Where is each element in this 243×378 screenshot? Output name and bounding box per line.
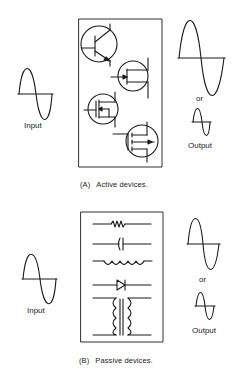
caption-tag-b: (B) (79, 356, 89, 365)
caption-a: (A)Active devices. (80, 181, 148, 189)
caption-text-a: Active devices. (96, 180, 148, 189)
output-label-a: Output (188, 142, 212, 150)
caption-tag-a: (A) (80, 180, 90, 189)
inductor-icon (93, 261, 152, 265)
passive-devices-box (81, 212, 163, 342)
caption-text-b: Passive devices. (95, 356, 152, 365)
resistor-icon (93, 221, 151, 227)
active-devices-box (79, 19, 162, 167)
mosfet-depletion-icon (84, 92, 118, 127)
output-small-sine-wave-icon (192, 109, 211, 136)
input-sine-wave-icon (22, 254, 57, 304)
output-label-b: Output (192, 327, 216, 335)
input-sine-wave-icon (18, 69, 53, 120)
capacitor-icon (93, 238, 151, 250)
transformer-icon (93, 298, 151, 335)
or-label-a: or (196, 95, 203, 103)
diode-icon (93, 280, 151, 290)
output-large-sine-wave-icon (187, 219, 220, 270)
caption-b: (B)Passive devices. (79, 357, 153, 365)
bipolar-transistor-icon (81, 24, 117, 66)
input-label-a: Input (24, 122, 42, 130)
output-large-sine-wave-icon (178, 21, 225, 96)
jfet-icon (111, 58, 148, 98)
panel-b (22, 212, 220, 342)
output-small-sine-wave-icon (195, 293, 215, 320)
mosfet-enhancement-icon (113, 122, 158, 162)
figure-canvas (0, 0, 243, 378)
or-label-b: or (199, 276, 206, 284)
input-label-b: Input (27, 307, 45, 315)
